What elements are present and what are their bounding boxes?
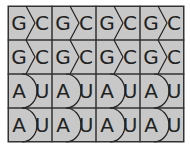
base-left-label: A bbox=[144, 113, 158, 137]
base-left-label: A bbox=[100, 113, 114, 137]
chevron-interface-icon bbox=[70, 40, 79, 74]
base-left-label: G bbox=[143, 45, 159, 69]
base-left-label: A bbox=[12, 113, 26, 137]
base-right-label: C bbox=[167, 45, 181, 69]
base-right-label: U bbox=[123, 79, 138, 103]
chevron-interface-icon bbox=[158, 40, 167, 74]
base-pair-tile: GC bbox=[52, 40, 96, 74]
chevron-interface-icon bbox=[114, 6, 123, 40]
base-pair-tile: AU bbox=[8, 108, 52, 142]
chevron-interface-icon bbox=[26, 6, 35, 40]
base-pair-tile: GC bbox=[140, 6, 184, 40]
base-right-label: U bbox=[35, 79, 50, 103]
chevron-interface-icon bbox=[26, 40, 35, 74]
base-pair-tile: GC bbox=[8, 40, 52, 74]
base-pair-tile: GC bbox=[140, 40, 184, 74]
base-pair-tile: AU bbox=[96, 74, 140, 108]
base-right-label: U bbox=[167, 113, 182, 137]
base-right-label: C bbox=[79, 11, 93, 35]
base-left-label: A bbox=[56, 113, 70, 137]
base-left-label: G bbox=[55, 45, 71, 69]
base-pair-tile: GC bbox=[52, 6, 96, 40]
base-left-label: A bbox=[56, 79, 70, 103]
chevron-interface-icon bbox=[158, 6, 167, 40]
base-pair-tile: AU bbox=[140, 108, 184, 142]
base-right-label: C bbox=[79, 45, 93, 69]
base-right-label: U bbox=[123, 113, 138, 137]
base-left-label: A bbox=[100, 79, 114, 103]
base-right-label: C bbox=[35, 45, 49, 69]
base-left-label: G bbox=[11, 11, 27, 35]
base-pair-tile: AU bbox=[8, 74, 52, 108]
base-left-label: G bbox=[99, 45, 115, 69]
base-pair-tile: AU bbox=[52, 108, 96, 142]
base-pair-tile: GC bbox=[96, 40, 140, 74]
base-right-label: C bbox=[123, 11, 137, 35]
base-pair-tile: AU bbox=[96, 108, 140, 142]
base-pair-diagram: GCGCGCGCGCGCGCGCAUAUAUAUAUAUAUAU bbox=[0, 0, 190, 156]
base-right-label: C bbox=[167, 11, 181, 35]
base-right-label: U bbox=[35, 113, 50, 137]
base-pair-tile: AU bbox=[140, 74, 184, 108]
base-left-label: A bbox=[144, 79, 158, 103]
base-right-label: U bbox=[79, 113, 94, 137]
base-left-label: G bbox=[11, 45, 27, 69]
base-right-label: C bbox=[123, 45, 137, 69]
base-right-label: C bbox=[35, 11, 49, 35]
base-left-label: A bbox=[12, 79, 26, 103]
base-pair-tile: GC bbox=[96, 6, 140, 40]
base-left-label: G bbox=[143, 11, 159, 35]
base-left-label: G bbox=[99, 11, 115, 35]
base-right-label: U bbox=[167, 79, 182, 103]
chevron-interface-icon bbox=[70, 6, 79, 40]
base-pair-tile: AU bbox=[52, 74, 96, 108]
base-right-label: U bbox=[79, 79, 94, 103]
base-pair-tile: GC bbox=[8, 6, 52, 40]
chevron-interface-icon bbox=[114, 40, 123, 74]
base-left-label: G bbox=[55, 11, 71, 35]
